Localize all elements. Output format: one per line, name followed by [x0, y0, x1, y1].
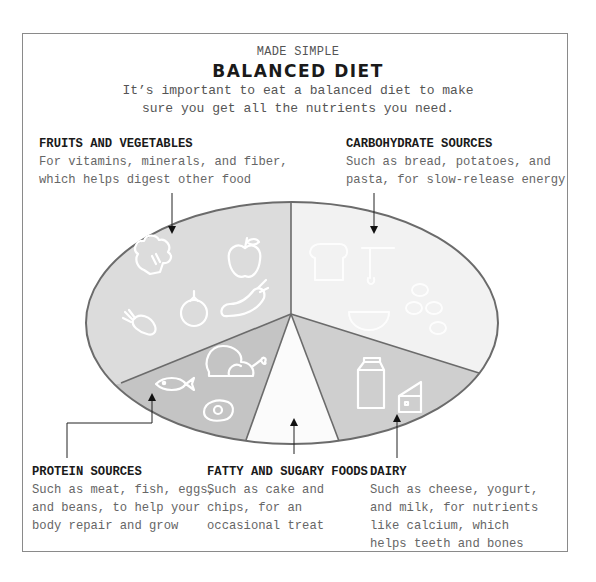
label-carbohydrates: CARBOHYDRATE SOURCES Such as bread, pota… [346, 135, 565, 189]
segment-heading: FRUITS AND VEGETABLES [39, 135, 288, 153]
label-fatty-sugary: FATTY AND SUGARY FOODS Such as cake and … [207, 463, 368, 535]
label-protein: PROTEIN SOURCES Such as meat, fish, eggs… [32, 463, 215, 535]
segment-description: For vitamins, minerals, and fiber, which… [39, 153, 288, 189]
segment-description: Such as meat, fish, eggs, and beans, to … [32, 481, 215, 535]
segment-description: Such as cake and chips, for an occasiona… [207, 481, 368, 535]
segment-heading: PROTEIN SOURCES [32, 463, 215, 481]
segment-description: Such as cheese, yogurt, and milk, for nu… [370, 481, 538, 553]
segment-heading: CARBOHYDRATE SOURCES [346, 135, 565, 153]
segment-description: Such as bread, potatoes, and pasta, for … [346, 153, 565, 189]
label-dairy: DAIRY Such as cheese, yogurt, and milk, … [370, 463, 538, 553]
segment-heading: FATTY AND SUGARY FOODS [207, 463, 368, 481]
leader-protein [67, 397, 152, 458]
segment-heading: DAIRY [370, 463, 538, 481]
label-fruits-vegetables: FRUITS AND VEGETABLES For vitamins, mine… [39, 135, 288, 189]
